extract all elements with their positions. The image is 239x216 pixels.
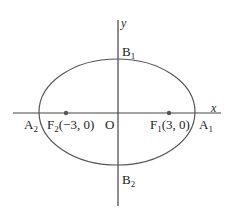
focus-f1-label: F1(3, 0) — [150, 117, 190, 134]
focus-f2-label: F2(−3, 0) — [47, 117, 94, 134]
y-axis-label: y — [120, 16, 127, 30]
vertex-b1-label: B1 — [122, 44, 135, 61]
ellipse-diagram: y x O B1 B2 A2 A1 F2(−3, 0) F1(3, 0) — [0, 0, 239, 216]
x-axis-label: x — [210, 101, 217, 115]
ellipse-curve — [39, 59, 195, 165]
vertex-a1-label: A1 — [199, 117, 213, 134]
origin-label: O — [105, 117, 114, 132]
focus-f1-point — [167, 111, 171, 115]
focus-f2-point — [64, 111, 68, 115]
vertex-b2-label: B2 — [122, 172, 135, 189]
vertex-a2-label: A2 — [24, 117, 38, 134]
